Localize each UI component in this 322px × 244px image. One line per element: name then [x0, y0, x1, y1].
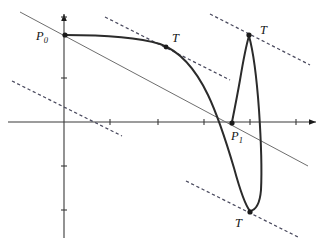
figure-root: P0 T T P1 T — [0, 0, 322, 244]
label-P1: P1 — [230, 129, 243, 145]
label-P0-base: P — [35, 29, 44, 43]
label-T-top-base: T — [260, 23, 268, 37]
label-T-bottom: T — [235, 216, 243, 230]
label-T-bottom-base: T — [235, 216, 243, 230]
dashed-tangent-bottom-right — [186, 181, 300, 238]
label-P0: P0 — [35, 29, 49, 45]
dashed-tangent-lower-left — [12, 81, 122, 136]
label-T-middle: T — [172, 31, 180, 45]
point-P1 — [229, 120, 234, 125]
point-P0 — [62, 32, 67, 37]
labels-group: P0 T T P1 T — [35, 23, 268, 230]
axes-group — [8, 14, 316, 238]
curve-diagram-svg: P0 T T P1 T — [0, 0, 322, 244]
x-axis-arrow-icon — [309, 119, 316, 125]
label-P1-base: P — [230, 129, 239, 143]
label-T-middle-base: T — [172, 31, 180, 45]
point-T-bottom — [247, 209, 252, 214]
label-P1-sub: 1 — [239, 135, 243, 145]
dashed-tangent-lines-group — [12, 14, 310, 238]
lower-cusp-return-branch — [249, 36, 261, 211]
dashed-tangent-top-right — [210, 14, 310, 65]
point-T-top — [246, 32, 251, 37]
label-P0-sub: 0 — [44, 35, 49, 45]
upper-cusp-down-to-P1 — [232, 36, 249, 122]
point-T-middle — [164, 45, 169, 50]
label-T-top: T — [260, 23, 268, 37]
